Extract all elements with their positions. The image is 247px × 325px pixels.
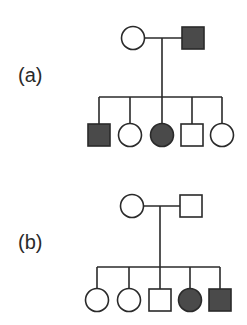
unaffected-female-parent-icon xyxy=(122,27,145,50)
affected-female-child-icon xyxy=(151,124,174,147)
unaffected-female-child-icon xyxy=(211,124,234,147)
affected-male-child-icon xyxy=(209,289,231,311)
pedigree-label: (b) xyxy=(18,231,42,253)
unaffected-male-child-icon xyxy=(149,289,171,311)
pedigree-b: (b) xyxy=(18,195,231,312)
affected-male-parent-icon xyxy=(182,27,204,49)
pedigree-label: (a) xyxy=(18,64,42,86)
affected-male-child-icon xyxy=(88,124,110,146)
unaffected-female-child-icon xyxy=(119,124,142,147)
unaffected-female-child-icon xyxy=(86,289,109,312)
pedigree-diagram: (a)(b) xyxy=(0,0,247,325)
unaffected-female-child-icon xyxy=(118,289,141,312)
unaffected-male-child-icon xyxy=(181,124,203,146)
pedigree-a: (a) xyxy=(18,27,234,147)
unaffected-male-parent-icon xyxy=(180,195,202,217)
affected-female-child-icon xyxy=(179,289,202,312)
unaffected-female-parent-icon xyxy=(121,195,144,218)
